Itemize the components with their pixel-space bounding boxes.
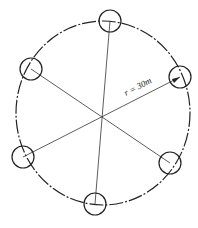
radius-label: r = 30m — [122, 75, 153, 98]
outer-boundary-circle — [16, 21, 190, 205]
radius-arrowhead-icon — [172, 77, 180, 83]
diameter-line-vertical — [95, 21, 110, 204]
diameter-line-lowerleft-upperright — [23, 77, 180, 157]
well-layout-diagram: r = 30m — [0, 0, 198, 228]
